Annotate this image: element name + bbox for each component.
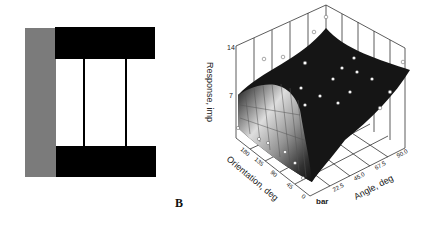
y-axis-label: Orientation, deg	[225, 154, 280, 203]
panel-label: B	[175, 196, 183, 211]
z-tick-7: 7	[229, 92, 233, 99]
svg-text:67.5: 67.5	[374, 160, 388, 171]
z-tick-14: 14	[227, 44, 235, 51]
svg-text:22.5: 22.5	[332, 182, 346, 193]
grey-bar	[25, 28, 56, 177]
response-surface	[236, 15, 410, 182]
svg-text:135: 135	[253, 156, 265, 167]
svg-text:0: 0	[300, 193, 307, 200]
z-axis-ticks: 14 7	[227, 44, 235, 99]
svg-text:45.0: 45.0	[353, 171, 367, 182]
figure-canvas: 14 7 Response, imp 180 135 90 45 0 Orien…	[0, 0, 430, 225]
bottom-black-bar	[56, 146, 156, 177]
corner-label-bar: bar	[316, 197, 328, 206]
top-black-bar	[55, 27, 155, 59]
svg-text:90.0: 90.0	[396, 148, 410, 159]
figure: 14 7 Response, imp 180 135 90 45 0 Orien…	[0, 0, 430, 225]
z-axis-label: Response, imp	[205, 62, 215, 122]
stimulus-diagram	[25, 27, 156, 177]
svg-text:180: 180	[239, 146, 251, 157]
